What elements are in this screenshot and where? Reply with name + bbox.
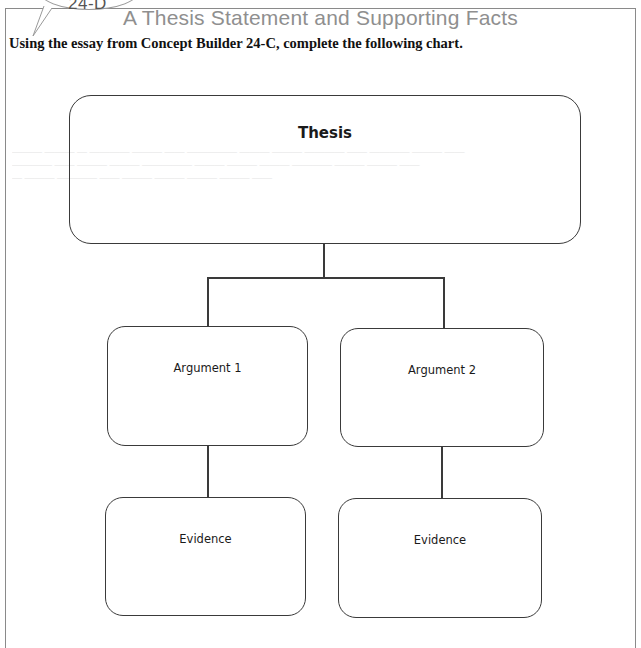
connector-arg2-ev2 [441, 446, 443, 499]
evidence-2-label: Evidence [339, 533, 541, 547]
thesis-box[interactable]: Thesis [69, 95, 581, 244]
bubble-tail-icon [30, 4, 70, 38]
argument-2-label: Argument 2 [341, 363, 543, 377]
instructions-text: Using the essay from Concept Builder 24-… [9, 35, 463, 52]
evidence-1-box[interactable]: Evidence [105, 497, 306, 616]
thesis-label: Thesis [70, 124, 580, 142]
evidence-2-box[interactable]: Evidence [338, 498, 542, 618]
connector-arg2-up [443, 277, 445, 329]
argument-1-box[interactable]: Argument 1 [107, 326, 308, 446]
connector-arg1-up [207, 277, 209, 327]
connector-horizontal [207, 277, 444, 279]
section-badge-label: 24-D [68, 0, 107, 14]
argument-2-box[interactable]: Argument 2 [340, 328, 544, 447]
evidence-1-label: Evidence [106, 532, 305, 546]
connector-thesis-down [323, 243, 325, 278]
argument-1-label: Argument 1 [108, 361, 307, 375]
connector-arg1-ev1 [207, 445, 209, 498]
